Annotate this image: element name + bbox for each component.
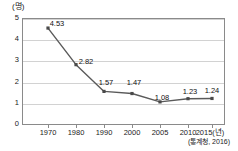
point-label-2015: 1.24 [205, 86, 220, 95]
point-label-1970: 4.53 [50, 19, 65, 28]
data-point-2015 [210, 97, 213, 100]
fertility-rate-line-chart: (명) 5 4 3 2 1 0 1970 1980 1990 2000 2005… [0, 0, 238, 151]
point-label-2010: 1.23 [183, 87, 198, 96]
source-note: (통계청, 2016) [188, 137, 230, 146]
point-label-1980: 2.82 [79, 57, 94, 66]
data-point-1990 [102, 90, 105, 93]
series-overlay [0, 0, 238, 151]
point-label-1990: 1.57 [99, 78, 114, 87]
data-point-1980 [74, 63, 77, 66]
point-label-2000: 1.47 [127, 78, 142, 87]
data-point-2000 [130, 92, 133, 95]
data-point-2010 [186, 97, 189, 100]
point-label-2005: 1.08 [155, 93, 170, 102]
